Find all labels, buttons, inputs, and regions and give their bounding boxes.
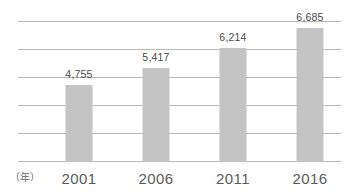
x-axis-tick: 2006 (121, 169, 191, 189)
bar[interactable] (297, 28, 324, 162)
bar-slot: 5,417 (121, 14, 191, 162)
bar-value-label: 4,755 (65, 69, 92, 80)
x-axis-tick: 2011 (198, 169, 268, 189)
bar[interactable] (66, 85, 93, 162)
x-axis-tick: 2016 (275, 169, 345, 189)
x-axis-tick: 2001 (44, 169, 114, 189)
bar-slot: 6,214 (198, 14, 268, 162)
bar-value-label: 6,685 (296, 12, 323, 23)
plot-area: 4,755 5,417 6,214 6,685 (18, 14, 341, 162)
bar[interactable] (143, 68, 170, 162)
bar[interactable] (220, 48, 247, 162)
bar-slot: 4,755 (44, 14, 114, 162)
bar-slot: 6,685 (275, 14, 345, 162)
bar-value-label: 5,417 (142, 52, 169, 63)
bar-value-label: 6,214 (219, 32, 246, 43)
x-axis: 2001 2006 2011 2016 (18, 166, 341, 192)
bar-chart: 4,755 5,417 6,214 6,685 （年） 2001 2006 20… (0, 0, 357, 194)
